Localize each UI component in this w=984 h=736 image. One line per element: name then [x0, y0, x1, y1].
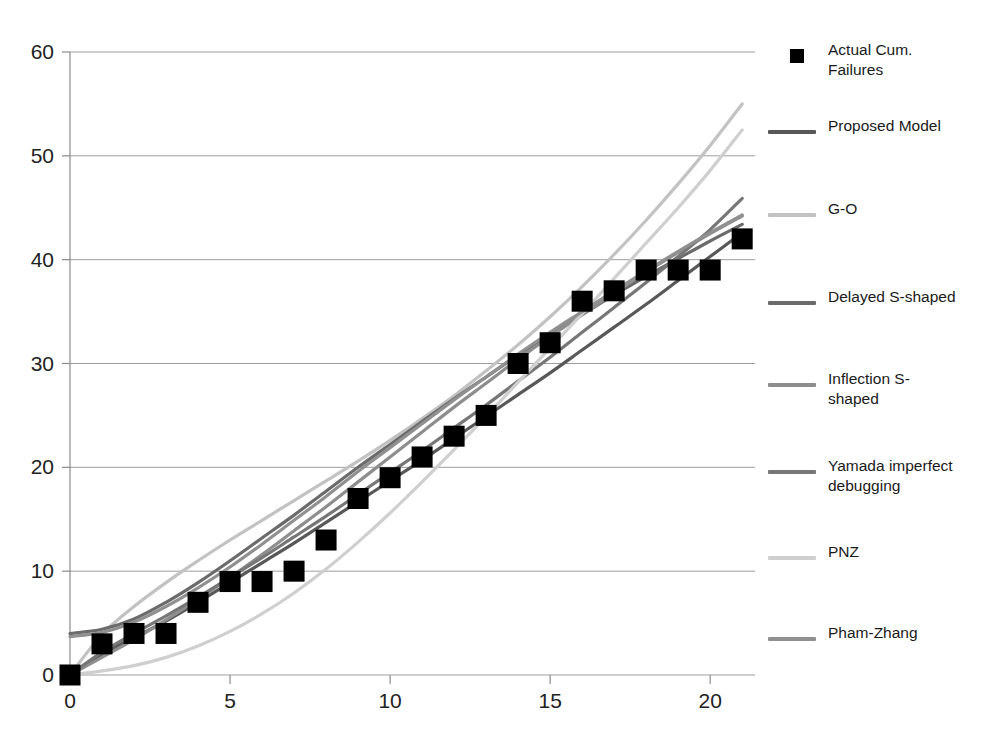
data-point-marker — [380, 467, 401, 488]
data-point-marker — [60, 665, 81, 686]
data-point-marker — [220, 571, 241, 592]
x-tick-label: 0 — [64, 689, 76, 712]
data-point-marker — [156, 623, 177, 644]
series-line — [70, 104, 742, 675]
y-tick-label: 0 — [42, 663, 54, 686]
legend-item-label: Proposed Model — [828, 116, 984, 136]
data-point-marker — [732, 228, 753, 249]
y-tick-label: 50 — [31, 144, 54, 167]
data-point-marker — [316, 530, 337, 551]
data-point-marker — [124, 623, 145, 644]
data-point-marker — [188, 592, 209, 613]
legend-item-label: Delayed S-shaped — [828, 287, 984, 307]
legend-item-label: G-O — [828, 199, 984, 219]
data-point-marker — [636, 260, 657, 281]
y-tick-label: 60 — [31, 40, 54, 63]
legend-line-swatch — [768, 470, 816, 474]
data-point-marker — [508, 353, 529, 374]
data-point-marker — [92, 633, 113, 654]
x-tick-label: 15 — [538, 689, 561, 712]
y-tick-label: 30 — [31, 352, 54, 375]
chart-figure: 010203040506005101520 Actual Cum. Failur… — [0, 0, 984, 736]
data-point-marker — [540, 332, 561, 353]
legend-item-label: Pham-Zhang — [828, 623, 984, 643]
x-tick-label: 10 — [378, 689, 401, 712]
data-point-marker — [284, 561, 305, 582]
legend-line-swatch — [768, 301, 816, 305]
data-point-marker — [700, 260, 721, 281]
data-point-marker — [348, 488, 369, 509]
x-tick-label: 20 — [699, 689, 722, 712]
legend-marker-swatch — [790, 49, 804, 63]
data-point-marker — [668, 260, 689, 281]
data-point-marker — [476, 405, 497, 426]
legend-line-swatch — [768, 383, 816, 387]
legend-item-label: Actual Cum. Failures — [828, 40, 984, 81]
data-point-marker — [412, 446, 433, 467]
legend-item-label: Inflection S- shaped — [828, 369, 984, 410]
legend-line-swatch — [768, 130, 816, 134]
legend-line-swatch — [768, 213, 816, 217]
y-tick-label: 20 — [31, 455, 54, 478]
data-point-marker — [444, 426, 465, 447]
legend-item-label: PNZ — [828, 542, 984, 562]
data-point-marker — [604, 280, 625, 301]
x-tick-label: 5 — [224, 689, 236, 712]
legend-line-swatch — [768, 556, 816, 560]
series-line — [70, 130, 742, 675]
data-point-marker — [252, 571, 273, 592]
legend-line-swatch — [768, 637, 816, 641]
series-line — [70, 233, 742, 675]
data-point-marker — [572, 291, 593, 312]
legend-item-label: Yamada imperfect debugging — [828, 456, 984, 497]
y-tick-label: 40 — [31, 248, 54, 271]
y-tick-label: 10 — [31, 559, 54, 582]
